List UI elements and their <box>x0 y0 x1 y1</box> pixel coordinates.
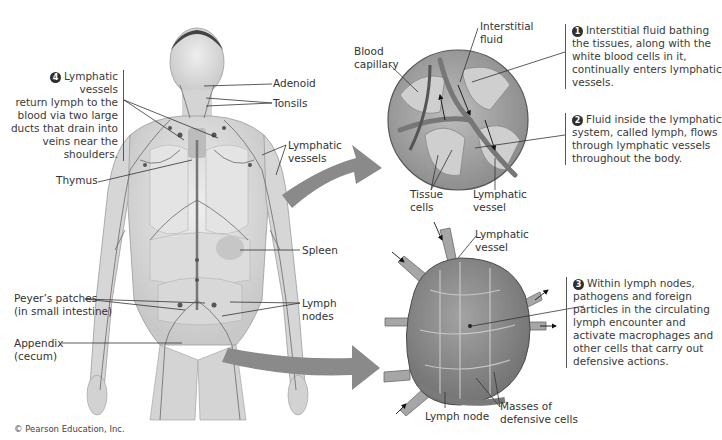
label-peyers-patches: Peyer’s patches(in small intestine) <box>14 292 112 318</box>
callout-4: 4Lymphatic vessels return lymph to the b… <box>10 70 124 161</box>
label-lymph-node: Lymph node <box>425 410 489 423</box>
label-lymphatic-vessel-tissue: Lymphaticvessel <box>473 188 527 214</box>
label-lymphatic-vessel-node: Lymphaticvessel <box>475 228 529 254</box>
label-blood-capillary: Bloodcapillary <box>354 45 399 71</box>
label-adenoid: Adenoid <box>273 77 316 90</box>
label-tissue-cells: Tissuecells <box>410 188 443 214</box>
label-thymus: Thymus <box>56 174 98 187</box>
copyright-notice: © Pearson Education, Inc. <box>14 424 125 434</box>
callout-1: 1Interstitial fluid bathing the tissues,… <box>565 24 722 89</box>
label-lymphatic-vessels: Lymphaticvessels <box>288 139 342 165</box>
lymph-node-inset <box>384 222 556 416</box>
step-4-badge: 4 <box>50 72 61 83</box>
step-3-badge: 3 <box>573 279 584 290</box>
label-lymph-nodes: Lymphnodes <box>302 297 337 323</box>
label-interstitial-fluid: Interstitialfluid <box>480 20 534 46</box>
step-2-badge: 2 <box>572 115 583 126</box>
label-tonsils: Tonsils <box>273 97 307 110</box>
step-1-badge: 1 <box>572 26 583 37</box>
label-masses-of-defensive-cells: Masses ofdefensive cells <box>500 400 578 426</box>
callout-3: 3Within lymph nodes, pathogens and forei… <box>566 277 721 368</box>
label-spleen: Spleen <box>302 244 338 257</box>
label-appendix: Appendix(cecum) <box>14 337 63 363</box>
callout-2: 2Fluid inside the lymphatic system, call… <box>565 113 722 165</box>
